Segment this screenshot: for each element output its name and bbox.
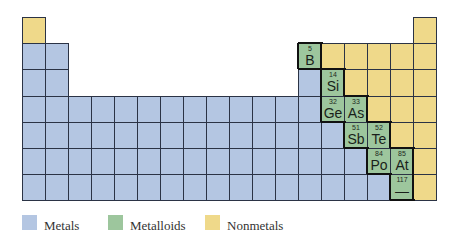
cell-metal [22, 174, 46, 201]
metalloid-boundary-line [297, 43, 299, 69]
cell-nonmetal [413, 174, 437, 201]
cell-metal [22, 69, 46, 96]
cell-metal [275, 148, 299, 175]
cell-nonmetal [367, 96, 391, 123]
cell-metal [91, 174, 115, 201]
metalloid-boundary-line [320, 69, 322, 121]
cell-metal [298, 122, 322, 149]
cell-metal [252, 96, 276, 123]
cell-nonmetal [22, 17, 46, 44]
periodic-table: 5B14Si32Ge33As51Sb52Te84Po85At117— [0, 0, 463, 205]
element-117: 117— [390, 174, 414, 201]
cell-metal [68, 174, 92, 201]
cell-metal [22, 43, 46, 70]
cell-metal [344, 148, 368, 175]
cell-metal [321, 122, 345, 149]
cell-metal [137, 148, 161, 175]
cell-nonmetal [413, 17, 437, 44]
cell-metal [298, 174, 322, 201]
element-symbol: Si [322, 78, 344, 94]
cell-metal [68, 148, 92, 175]
cell-nonmetal [367, 43, 391, 70]
element-symbol: Ge [322, 105, 344, 121]
element-symbol: Sb [345, 131, 367, 147]
cell-metal [45, 174, 69, 201]
element-5: 5B [298, 43, 322, 70]
cell-nonmetal [390, 43, 414, 70]
metalloid-boundary-line [389, 174, 391, 200]
cell-metal [68, 122, 92, 149]
cell-metal [183, 122, 207, 149]
element-51: 51Sb [344, 122, 368, 149]
metalloid-boundary-line [390, 199, 415, 201]
cell-metal [137, 174, 161, 201]
cell-metal [252, 148, 276, 175]
cell-metal [160, 96, 184, 123]
legend-label-metals: Metals [44, 218, 79, 234]
cell-nonmetal [413, 96, 437, 123]
cell-metal [275, 96, 299, 123]
element-symbol: At [391, 157, 413, 173]
cell-metal [45, 122, 69, 149]
cell-nonmetal [344, 43, 368, 70]
element-85: 85At [390, 148, 414, 175]
cell-metal [275, 174, 299, 201]
nonmetals-swatch [205, 215, 220, 230]
cell-metal [229, 96, 253, 123]
metalloid-boundary-line [412, 148, 414, 200]
cell-metal [183, 96, 207, 123]
element-symbol: — [391, 183, 413, 199]
cell-metal [206, 122, 230, 149]
metals-swatch [22, 215, 37, 230]
cell-metal [229, 174, 253, 201]
element-symbol: Te [368, 131, 390, 147]
element-symbol: B [299, 52, 321, 68]
element-33: 33As [344, 96, 368, 123]
metalloid-boundary-line [366, 96, 368, 122]
cell-metal [321, 174, 345, 201]
cell-metal [114, 148, 138, 175]
cell-metal [91, 148, 115, 175]
cell-metal [114, 122, 138, 149]
cell-nonmetal [413, 69, 437, 96]
cell-metal [252, 174, 276, 201]
cell-metal [298, 148, 322, 175]
cell-metal [160, 122, 184, 149]
cell-metal [45, 69, 69, 96]
cell-metal [114, 96, 138, 123]
cell-metal [160, 148, 184, 175]
cell-metal [114, 174, 138, 201]
element-symbol: Po [368, 157, 390, 173]
cell-metal [321, 148, 345, 175]
cell-metal [22, 96, 46, 123]
element-32: 32Ge [321, 96, 345, 123]
element-52: 52Te [367, 122, 391, 149]
cell-nonmetal [390, 69, 414, 96]
cell-nonmetal [367, 69, 391, 96]
metalloid-boundary-line [389, 122, 391, 148]
metalloid-boundary-line [343, 69, 345, 95]
element-14: 14Si [321, 69, 345, 96]
cell-metal [68, 96, 92, 123]
cell-metal [91, 96, 115, 123]
cell-metal [183, 174, 207, 201]
cell-metal [344, 174, 368, 201]
cell-nonmetal [413, 122, 437, 149]
cell-metal [137, 122, 161, 149]
cell-metal [45, 43, 69, 70]
cell-metal [45, 148, 69, 175]
cell-metal [45, 96, 69, 123]
cell-metal [298, 96, 322, 123]
cell-metal [206, 148, 230, 175]
cell-metal [229, 148, 253, 175]
metalloid-boundary-line [343, 122, 345, 148]
legend-label-metalloids: Metalloids [130, 218, 186, 234]
cell-metal [206, 96, 230, 123]
element-symbol: As [345, 105, 367, 121]
cell-nonmetal [390, 122, 414, 149]
cell-metal [252, 122, 276, 149]
cell-metal [183, 148, 207, 175]
cell-nonmetal [344, 69, 368, 96]
cell-metal [367, 174, 391, 201]
cell-metal [229, 122, 253, 149]
